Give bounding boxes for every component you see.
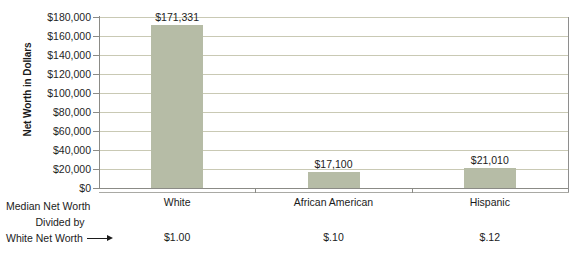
y-axis-tick-mark	[93, 150, 100, 151]
y-axis-tick-mark	[93, 55, 100, 56]
y-axis-tick-label: $40,000	[7, 144, 91, 156]
net-worth-bar-chart: Net Worth in Dollars $0$20,000$40,000$60…	[0, 0, 575, 256]
ratio-value: $1.00	[164, 231, 190, 243]
y-axis-tick-label: $80,000	[7, 106, 91, 118]
y-axis-tick-group: $0$20,000$40,000$60,000$80,000$100,000$1…	[0, 17, 91, 188]
y-axis-tick-label: $180,000	[7, 11, 91, 23]
x-axis-tick-mark	[412, 188, 413, 193]
footer-caption: Median Net WorthDivided byWhite Net Wort…	[2, 198, 134, 246]
footer-caption-line-2: Divided by	[2, 214, 134, 230]
bar-hispanic	[464, 168, 516, 188]
footer-caption-line-1: Median Net Worth	[2, 198, 134, 214]
y-axis-tick-mark	[93, 188, 100, 189]
y-axis-tick-mark	[93, 17, 100, 18]
bar-value-label: $21,010	[471, 154, 509, 166]
y-axis-tick-label: $20,000	[7, 163, 91, 175]
x-axis-category-label: Hispanic	[470, 196, 510, 208]
footer-caption-line-3: White Net Worth	[2, 230, 134, 246]
footer-caption-line-3-text: White Net Worth	[6, 230, 83, 246]
y-axis-tick-mark	[93, 36, 100, 37]
y-axis-tick-mark	[93, 112, 100, 113]
x-axis-category-label: White	[164, 196, 191, 208]
bar-african-american	[308, 172, 360, 188]
y-axis-tick-mark	[93, 169, 100, 170]
y-axis-tick-label: $0	[7, 182, 91, 194]
bar-white	[151, 25, 203, 188]
plot-bottom-border	[99, 192, 569, 193]
y-axis-tick-label: $120,000	[7, 68, 91, 80]
gridline	[99, 188, 568, 189]
y-axis-tick-label: $100,000	[7, 87, 91, 99]
bar-value-label: $17,100	[315, 158, 353, 170]
bar-value-label: $171,331	[155, 11, 199, 23]
x-axis-tick-mark	[255, 188, 256, 193]
y-axis-tick-mark	[93, 74, 100, 75]
ratio-value: $.10	[323, 231, 343, 243]
arrow-right-icon	[87, 235, 113, 242]
y-axis-tick-mark	[93, 131, 100, 132]
plot-right-border	[568, 17, 569, 192]
y-axis-tick-label: $160,000	[7, 30, 91, 42]
ratio-value: $.12	[480, 231, 500, 243]
y-axis-tick-label: $140,000	[7, 49, 91, 61]
y-axis-tick-mark	[93, 93, 100, 94]
y-axis-tick-label: $60,000	[7, 125, 91, 137]
x-axis-category-label: African American	[294, 196, 373, 208]
